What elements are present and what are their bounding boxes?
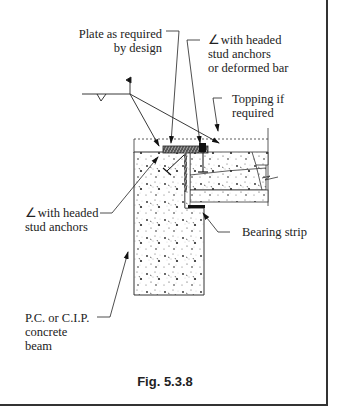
angle-icon: ∠ [25, 206, 37, 220]
weld-symbol [82, 77, 219, 146]
figure-caption: Fig. 5.3.8 [0, 374, 330, 389]
label-angle-left: ∠with headed stud anchors [25, 206, 98, 234]
bearing-strip [188, 205, 205, 208]
label-angle-top: ∠with headed stud anchors or deformed ba… [208, 33, 289, 75]
leader-plate [166, 31, 179, 143]
angle-in-tee [199, 143, 206, 152]
angle-leg-beam [184, 152, 187, 192]
leader-bearing [203, 213, 230, 232]
label-bearing-strip: Bearing strip [242, 225, 307, 239]
leader-angle-top [187, 40, 200, 143]
label-plate: Plate as required by design [62, 27, 162, 55]
angle-icon: ∠ [208, 33, 220, 47]
label-beam: P.C. or C.I.P. concrete beam [25, 311, 89, 353]
label-topping: Topping if required [232, 92, 284, 120]
leader-beam [97, 252, 128, 317]
leader-topping [213, 98, 222, 131]
